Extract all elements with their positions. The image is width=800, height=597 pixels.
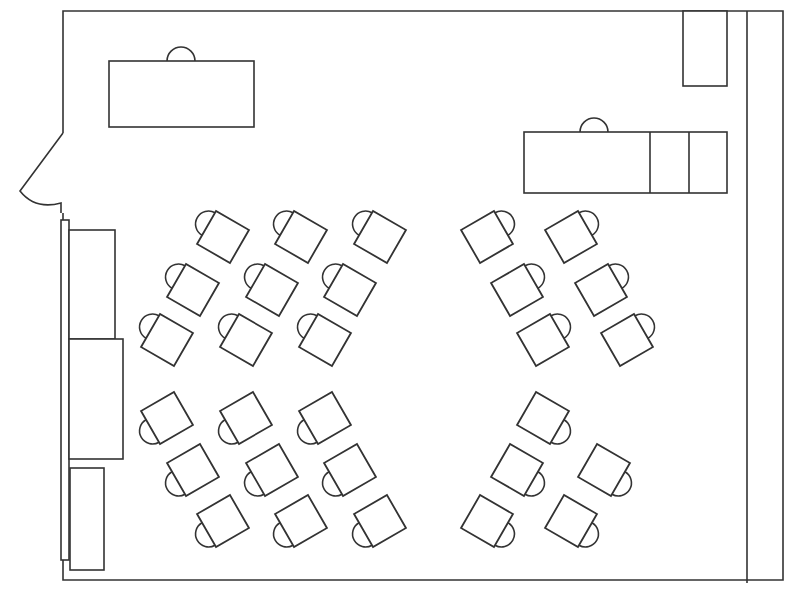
student-desk <box>578 444 641 502</box>
student-desk <box>343 205 406 263</box>
student-desk <box>545 495 608 553</box>
teacher-desk-top <box>109 61 254 127</box>
student-desk <box>235 444 298 502</box>
student-desk <box>517 308 580 366</box>
left-cabinet-middle <box>69 339 123 459</box>
left-wall-ledge <box>61 220 69 560</box>
student-desk <box>601 308 664 366</box>
student-desk <box>156 444 219 502</box>
student-desk <box>491 444 554 502</box>
student-desk <box>575 258 638 316</box>
student-desk <box>461 495 524 553</box>
student-desk <box>491 258 554 316</box>
student-desk <box>288 308 351 366</box>
left-wall-storage <box>61 220 123 570</box>
student-desk <box>186 205 249 263</box>
student-desk <box>313 444 376 502</box>
student-desk <box>264 495 327 553</box>
student-desk <box>156 258 219 316</box>
student-desk <box>517 392 580 450</box>
student-desk <box>186 495 249 553</box>
student-desk <box>209 308 272 366</box>
front-counter <box>524 118 727 193</box>
student-desk <box>130 308 193 366</box>
corner-cabinet <box>683 11 727 86</box>
student-desk <box>461 205 524 263</box>
classroom-floor-plan <box>0 0 800 597</box>
counter-chair <box>580 118 608 132</box>
left-cabinet-bottom <box>70 468 104 570</box>
student-desk <box>545 205 608 263</box>
student-desk <box>209 392 272 450</box>
teacher-chair <box>167 47 195 61</box>
student-desk <box>130 392 193 450</box>
left-cabinet-top <box>69 230 115 339</box>
student-desk <box>313 258 376 316</box>
student-desk <box>264 205 327 263</box>
student-desk <box>288 392 351 450</box>
door <box>20 133 63 213</box>
teacher-desk <box>109 47 254 127</box>
student-desk <box>235 258 298 316</box>
student-desks <box>130 205 664 554</box>
student-desk <box>343 495 406 553</box>
counter-main <box>524 132 727 193</box>
